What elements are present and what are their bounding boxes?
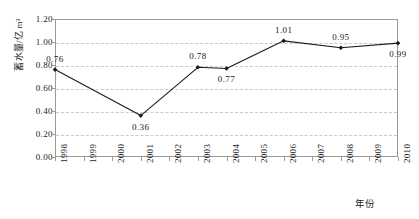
y-tick-label: 1.20 <box>13 14 53 24</box>
y-tick-label: 0.20 <box>13 129 53 139</box>
x-tick-mark <box>255 157 256 161</box>
x-tick-mark <box>398 157 399 161</box>
y-tick-label: 1.00 <box>13 37 53 47</box>
data-point-label: 0.78 <box>189 51 206 61</box>
x-tick-label: 2009 <box>373 144 383 163</box>
gridline <box>56 135 397 136</box>
x-tick-mark <box>141 157 142 161</box>
x-tick-mark <box>198 157 199 161</box>
x-tick-mark <box>169 157 170 161</box>
x-axis-title: 年份 <box>355 196 375 210</box>
y-tick-label: 0.40 <box>13 106 53 116</box>
x-tick-label: 1999 <box>88 144 98 163</box>
data-point-label: 0.36 <box>132 122 149 132</box>
data-point-label: 0.95 <box>332 32 349 42</box>
data-point-label: 0.76 <box>46 54 63 64</box>
data-point-label: 0.99 <box>389 49 406 59</box>
x-tick-mark <box>312 157 313 161</box>
gridline <box>56 112 397 113</box>
x-tick-label: 2006 <box>288 144 298 163</box>
gridline <box>56 66 397 67</box>
x-tick-mark <box>341 157 342 161</box>
x-tick-label: 2004 <box>231 144 241 163</box>
x-tick-label: 1998 <box>59 144 69 163</box>
x-tick-label: 2010 <box>402 144 412 163</box>
x-tick-label: 2002 <box>173 144 183 163</box>
data-point-label: 1.01 <box>275 25 292 35</box>
x-tick-mark <box>55 157 56 161</box>
x-tick-mark <box>84 157 85 161</box>
x-tick-label: 2007 <box>316 144 326 163</box>
x-tick-mark <box>369 157 370 161</box>
x-tick-mark <box>284 157 285 161</box>
y-tick-label: 0.60 <box>13 83 53 93</box>
x-tick-label: 2000 <box>116 144 126 163</box>
data-point-label: 0.77 <box>218 74 235 84</box>
x-tick-mark <box>227 157 228 161</box>
x-tick-mark <box>112 157 113 161</box>
x-tick-label: 2001 <box>145 144 155 163</box>
x-tick-label: 2003 <box>202 144 212 163</box>
x-tick-label: 2008 <box>345 144 355 163</box>
chart-screenshot: 蓄水量/亿 m³ 0.000.200.400.600.801.001.20 19… <box>0 0 419 219</box>
y-tick-label: 0.00 <box>13 152 53 162</box>
x-tick-label: 2005 <box>259 144 269 163</box>
gridline <box>56 43 397 44</box>
gridline <box>56 89 397 90</box>
